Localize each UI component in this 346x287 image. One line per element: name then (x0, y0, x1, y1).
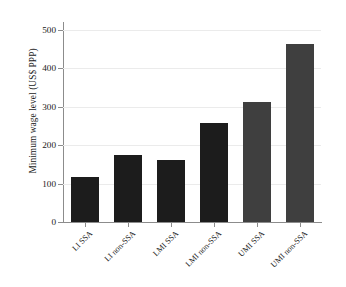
x-tick-label: LI SSA (70, 229, 94, 253)
bar-chart-figure: Minimum wage level (US$ PPP) 01002003004… (0, 0, 346, 287)
gridline (63, 68, 321, 69)
bar (200, 123, 228, 222)
x-tick-mark (257, 223, 258, 227)
x-tick-label: LMI non-SSA (183, 229, 223, 269)
gridline (63, 184, 321, 185)
x-tick-mark (300, 223, 301, 227)
y-tick-mark (58, 222, 63, 223)
y-tick-label: 500 (16, 25, 56, 35)
x-tick-label: UMI SSA (236, 229, 266, 259)
bar (157, 160, 185, 222)
plot-area (63, 22, 321, 222)
y-tick-label: 300 (16, 102, 56, 112)
x-tick-mark (85, 223, 86, 227)
x-tick-mark (128, 223, 129, 227)
x-tick-mark (171, 223, 172, 227)
x-axis-spine (63, 222, 322, 223)
gridline (63, 107, 321, 108)
bar (114, 155, 142, 222)
x-tick-label: UMI non-SSA (269, 229, 309, 269)
x-tick-mark (214, 223, 215, 227)
gridline (63, 30, 321, 31)
gridline (63, 145, 321, 146)
y-tick-label: 400 (16, 63, 56, 73)
bar (286, 44, 314, 222)
y-tick-label: 100 (16, 179, 56, 189)
y-tick-label: 200 (16, 140, 56, 150)
x-tick-label: LI non-SSA (102, 229, 137, 264)
bar (243, 102, 271, 222)
x-tick-label: LMI SSA (151, 229, 180, 258)
y-tick-label: 0 (16, 217, 56, 227)
bar (71, 177, 99, 222)
